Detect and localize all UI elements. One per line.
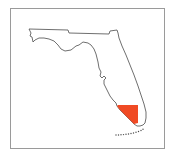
florida-keys [115, 129, 143, 136]
florida-map [0, 0, 169, 158]
highlighted-county[interactable] [117, 105, 138, 124]
